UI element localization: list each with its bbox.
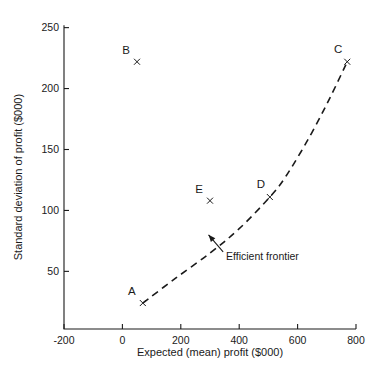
data-point-e: E (195, 183, 213, 204)
annotation-label-efficient-frontier: Efficient frontier (226, 250, 299, 262)
plot-area: 50100150200250-2000200400600800 ABCDE Ef… (0, 0, 378, 385)
axes-group (64, 25, 356, 329)
y-tick-label: 100 (41, 204, 59, 216)
point-label-c: C (334, 43, 342, 55)
x-tick-label: -200 (53, 334, 74, 346)
point-label-a: A (128, 285, 136, 297)
data-points-group: ABCDE (122, 43, 350, 306)
y-tick-label: 150 (41, 143, 59, 155)
y-axis-title: Standard deviation of profit ($000) (12, 94, 24, 260)
point-label-b: B (122, 44, 130, 56)
annotations-group: Efficient frontier (209, 235, 300, 262)
x-tick-label: 800 (347, 334, 365, 346)
data-point-d: D (257, 178, 273, 200)
y-tick-label: 200 (41, 82, 59, 94)
x-axis-title: Expected (mean) profit ($000) (137, 346, 283, 358)
point-label-d: D (257, 178, 265, 190)
axis-lines (64, 25, 356, 329)
x-tick-label: 200 (172, 334, 190, 346)
data-point-a: A (128, 285, 146, 306)
point-label-e: E (195, 183, 203, 195)
tick-labels-group: 50100150200250-2000200400600800 (41, 21, 364, 346)
y-tick-label: 250 (41, 21, 59, 33)
efficient-frontier-curve (143, 62, 347, 303)
x-tick-label: 0 (119, 334, 125, 346)
y-tick-label: 50 (47, 265, 59, 277)
data-point-b: B (122, 44, 140, 65)
ticks-group (64, 28, 356, 329)
x-tick-label: 400 (230, 334, 248, 346)
efficient-frontier-chart: 50100150200250-2000200400600800 ABCDE Ef… (0, 0, 378, 385)
frontier-curve-group (143, 62, 347, 303)
x-tick-label: 600 (289, 334, 307, 346)
data-point-c: C (334, 43, 350, 65)
